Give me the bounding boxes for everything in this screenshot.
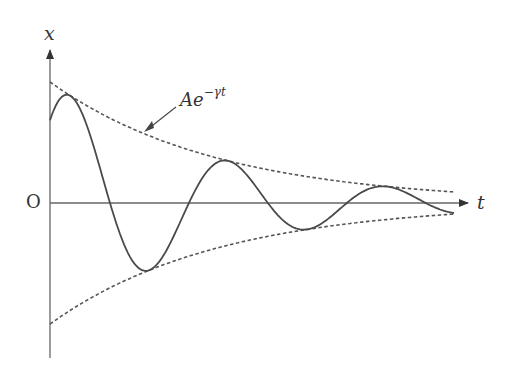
envelope-label: Ae−γt	[180, 88, 226, 110]
lower-envelope	[50, 214, 454, 324]
damped-oscillation-curve	[50, 95, 454, 271]
envelope-label-exponent: −γt	[204, 85, 226, 99]
arrow-head-icon	[144, 121, 154, 132]
envelope-label-base: Ae	[180, 89, 204, 110]
y-axis-label: x	[44, 22, 55, 44]
upper-envelope	[50, 82, 454, 192]
diagram-canvas	[0, 0, 510, 379]
x-axis-label: t	[477, 191, 485, 213]
origin-label: O	[26, 191, 41, 212]
